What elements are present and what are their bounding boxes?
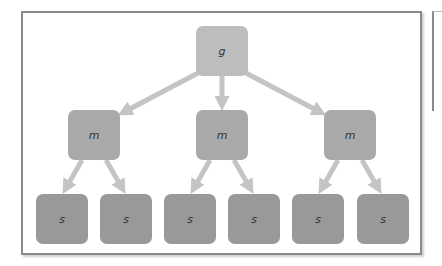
node-m-2: m xyxy=(196,110,248,160)
node-label: s xyxy=(187,213,193,226)
arrow-m2-s3 xyxy=(194,160,210,188)
node-s-2: s xyxy=(100,194,152,244)
node-label: m xyxy=(217,129,228,142)
arrow-m3-s5 xyxy=(322,160,338,188)
node-m-3: m xyxy=(324,110,376,160)
node-s-6: s xyxy=(357,194,409,244)
node-label: s xyxy=(123,213,129,226)
arrow-g-m3 xyxy=(244,72,320,112)
arrow-m2-s4 xyxy=(234,160,250,188)
arrow-m1-s2 xyxy=(106,160,122,188)
node-m-1: m xyxy=(68,110,120,160)
node-label: s xyxy=(380,213,386,226)
node-label: m xyxy=(89,129,100,142)
node-s-1: s xyxy=(36,194,88,244)
arrow-m3-s6 xyxy=(362,160,378,188)
node-label: g xyxy=(219,45,226,58)
node-g: g xyxy=(196,26,248,76)
node-s-3: s xyxy=(164,194,216,244)
arrow-m1-s1 xyxy=(66,160,82,188)
arrow-g-m1 xyxy=(124,72,200,112)
node-s-5: s xyxy=(292,194,344,244)
node-label: s xyxy=(315,213,321,226)
node-label: m xyxy=(345,129,356,142)
node-s-4: s xyxy=(228,194,280,244)
node-label: s xyxy=(59,213,65,226)
node-label: s xyxy=(251,213,257,226)
